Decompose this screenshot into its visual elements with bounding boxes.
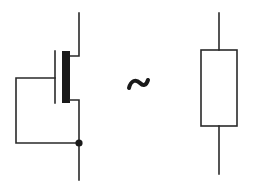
diagram-canvas [0,0,253,187]
resistor-body [201,50,237,126]
junction-dot [75,139,82,146]
mosfet-symbol [16,13,83,180]
channel-bar [62,51,70,103]
resistor-symbol [201,13,237,174]
drain-wire [70,13,79,56]
approx-symbol [129,80,148,88]
circuit-diagram [0,0,253,187]
